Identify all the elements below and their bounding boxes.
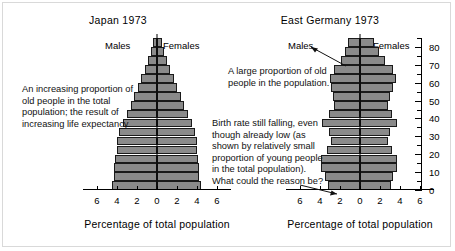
annotation-arrows xyxy=(0,0,455,251)
